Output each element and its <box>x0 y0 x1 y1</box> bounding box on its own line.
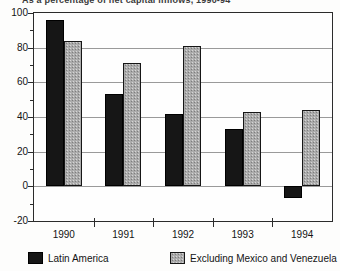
y-axis-label-80: 80 <box>0 43 28 53</box>
x-axis-tick-3 <box>213 218 214 227</box>
x-axis-label-1991: 1991 <box>98 229 148 240</box>
bar-1992-latin-america <box>165 114 183 187</box>
x-axis-label-1993: 1993 <box>218 229 268 240</box>
x-axis-tick-2 <box>153 218 154 227</box>
x-axis-label-1990: 1990 <box>39 229 89 240</box>
y-axis-tick-80 <box>28 48 33 49</box>
y-axis-minor-tick--10 <box>30 204 33 205</box>
y-axis-tick-0 <box>28 186 33 187</box>
plot-area <box>33 12 333 222</box>
y-axis-minor-tick-90 <box>30 30 33 31</box>
bar-1994-excluding-mexico-and-venezuela <box>302 110 320 186</box>
x-axis-tick-4 <box>272 218 273 227</box>
y-axis-minor-tick-30 <box>30 134 33 135</box>
legend-label-latin-america: Latin America <box>48 253 109 264</box>
bar-1990-excluding-mexico-and-venezuela <box>64 41 82 187</box>
bar-chart: As a percentage of net capital inflows, … <box>0 0 340 271</box>
legend-label-excluding-mexico-venezuela: Excluding Mexico and Venezuela <box>190 253 337 264</box>
y-axis-label-60: 60 <box>0 77 28 87</box>
legend-swatch-excluding-mexico-venezuela <box>170 252 185 264</box>
y-axis-tick-100 <box>28 13 33 14</box>
y-axis-label--20: -20 <box>0 216 28 226</box>
y-axis-label-0: 0 <box>0 181 28 191</box>
chart-title-clipped: As a percentage of net capital inflows, … <box>22 0 322 6</box>
bar-1990-latin-america <box>46 20 64 186</box>
y-axis-label-20: 20 <box>0 147 28 157</box>
y-axis-label-100: 100 <box>0 8 28 18</box>
x-axis-label-1994: 1994 <box>277 229 327 240</box>
y-axis-tick-40 <box>28 117 33 118</box>
y-axis-minor-tick-70 <box>30 65 33 66</box>
y-axis-label-40: 40 <box>0 112 28 122</box>
y-axis-minor-tick-10 <box>30 169 33 170</box>
bar-1993-latin-america <box>225 129 243 186</box>
legend: Latin America Excluding Mexico and Venez… <box>0 250 340 268</box>
bar-1991-excluding-mexico-and-venezuela <box>123 63 141 186</box>
y-axis-minor-tick-50 <box>30 100 33 101</box>
bar-1993-excluding-mexico-and-venezuela <box>243 112 261 187</box>
y-axis-tick-60 <box>28 82 33 83</box>
y-axis-tick--20 <box>28 221 33 222</box>
bar-1991-latin-america <box>105 94 123 186</box>
x-axis-label-1992: 1992 <box>158 229 208 240</box>
legend-swatch-latin-america <box>28 252 43 264</box>
y-axis-tick-20 <box>28 152 33 153</box>
x-axis-tick-1 <box>94 218 95 227</box>
bar-1992-excluding-mexico-and-venezuela <box>183 46 201 186</box>
bar-1994-latin-america <box>284 186 302 198</box>
chart-title-text: As a percentage of net capital inflows, … <box>22 0 322 5</box>
